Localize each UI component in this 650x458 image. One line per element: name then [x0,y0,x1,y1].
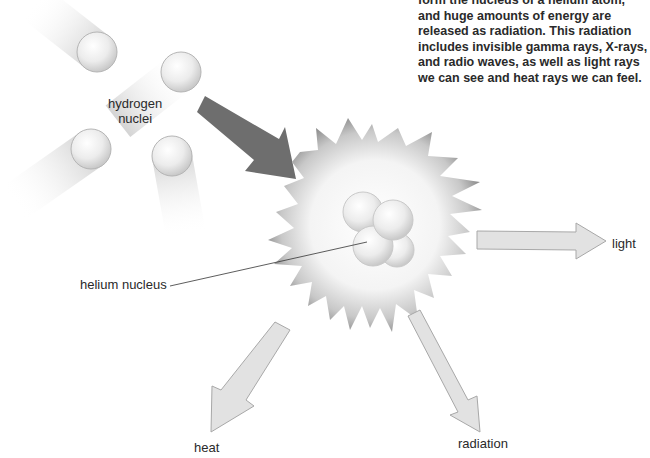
hydrogen-nuclei-label: hydrogen nuclei [108,96,162,126]
caption-text: form the nucleus of a helium atom, and h… [418,0,650,86]
hydrogen-nucleus-1 [22,0,117,72]
radiation-label: radiation [458,436,508,451]
hydrogen-label-line1: hydrogen [108,96,162,111]
heat-label: heat [194,440,219,455]
hydrogen-nucleus-4 [152,136,206,238]
heat-arrow [211,322,290,432]
hydrogen-nucleus-3 [2,129,111,220]
radiation-arrow [408,310,480,432]
light-label: light [612,236,636,251]
helium-nucleus-label: helium nucleus [80,277,167,292]
hydrogen-label-line2: nuclei [108,111,162,126]
incoming-arrow [197,96,296,179]
light-arrow [477,223,606,259]
